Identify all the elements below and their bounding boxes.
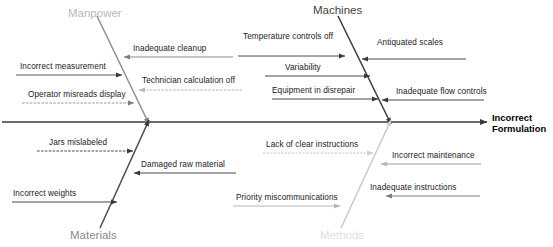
cause-label-damaged-raw-material: Damaged raw material [141,161,225,170]
cause-label-antiquated-scales: Antiquated scales [377,39,443,48]
effect-label-line1: Incorrect [492,112,546,123]
fishbone-diagram: Manpower Machines Materials Methods Inco… [0,0,553,247]
bone-machines [338,16,391,124]
cause-label-incorrect-maintenance: Incorrect maintenance [392,152,475,161]
cause-label-technician-calculation-off: Technician calculation off [142,77,235,86]
cause-label-priority-miscommunications: Priority miscommunications [236,194,338,203]
cause-label-inadequate-cleanup: Inadequate cleanup [133,45,206,54]
cause-label-operator-misreads-display: Operator misreads display [28,91,126,100]
category-label-manpower: Manpower [68,7,122,19]
cause-label-incorrect-weights: Incorrect weights [13,190,76,199]
category-label-materials: Materials [70,229,117,241]
category-label-machines: Machines [313,4,362,16]
cause-label-temperature-controls-off: Temperature controls off [243,33,333,42]
cause-label-equipment-in-disrepair: Equipment in disrepair [272,87,355,96]
cause-label-lack-of-clear-instructions: Lack of clear instructions [266,141,358,150]
bone-methods [341,120,391,228]
category-label-methods: Methods [320,229,364,241]
cause-label-jars-mislabeled: Jars mislabeled [49,139,107,148]
bone-materials-group [100,120,149,228]
cause-label-inadequate-instructions: Inadequate instructions [370,184,457,193]
bone-materials [100,120,149,228]
cause-label-incorrect-measurement: Incorrect measurement [20,63,106,72]
bone-machines-group [338,16,391,124]
cause-label-variability: Variability [285,64,321,73]
cause-label-inadequate-flow-controls: Inadequate flow controls [396,88,487,97]
effect-label: Incorrect Formulation [492,112,546,135]
effect-label-line2: Formulation [492,123,546,134]
bone-methods-group [341,120,391,228]
